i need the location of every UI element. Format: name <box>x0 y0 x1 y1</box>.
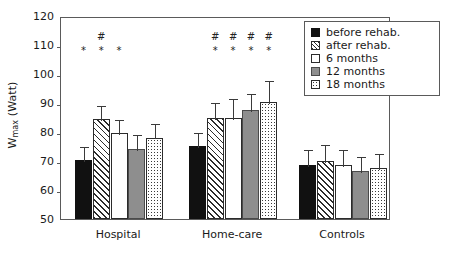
error-bar-cap <box>229 99 238 100</box>
bar-home-care-series-2 <box>225 118 242 219</box>
significance-star-marker: * <box>93 46 110 56</box>
legend-item-label: after rehab. <box>326 40 391 51</box>
significance-star-marker: * <box>75 46 92 56</box>
bar-hospital-series-2 <box>111 133 128 219</box>
bar-controls-series-1 <box>317 161 334 219</box>
error-bar-cap <box>151 124 160 125</box>
error-bar-cap <box>321 145 330 146</box>
error-bar <box>379 154 380 170</box>
error-bar-cap <box>194 133 203 134</box>
y-axis-tick-label: 80 <box>20 127 54 138</box>
legend-item-6-months: 6 months <box>311 52 434 65</box>
y-axis-tick-label: 60 <box>20 185 54 196</box>
error-bar-cap <box>211 103 220 104</box>
bar-controls-series-2 <box>335 165 352 219</box>
error-bar <box>137 135 138 150</box>
error-bar-cap <box>247 94 256 95</box>
y-axis-tick-mark <box>57 76 61 77</box>
x-axis-group-label-controls: Controls <box>297 228 387 241</box>
significance-star-marker: * <box>260 46 277 56</box>
significance-star-marker: * <box>207 46 224 56</box>
error-bar <box>343 150 344 167</box>
bar-home-care-series-3 <box>242 110 259 219</box>
x-axis-group-label-home-care: Home-care <box>187 228 277 241</box>
legend-swatch-icon <box>311 67 320 76</box>
y-axis-tick-labels: 5060708090100110120 <box>20 0 54 254</box>
y-axis-tick-label: 50 <box>20 214 54 225</box>
legend-item-label: 6 months <box>326 53 378 64</box>
significance-star-marker: * <box>225 46 242 56</box>
bar-controls-series-0 <box>299 165 316 219</box>
y-axis-tick-label: 120 <box>20 11 54 22</box>
error-bar <box>101 106 102 121</box>
error-bar <box>361 157 362 174</box>
legend-item-18-months: 18 months <box>311 78 434 91</box>
legend-item-label: 18 months <box>326 79 385 90</box>
bar-home-care-series-1 <box>207 118 224 219</box>
bar-controls-series-4 <box>370 168 387 219</box>
legend-item-12-months: 12 months <box>311 65 434 78</box>
y-axis-title-subscript: max <box>11 120 20 138</box>
y-axis-tick-label: 100 <box>20 69 54 80</box>
legend-item-label: 12 months <box>326 66 385 77</box>
legend-swatch-icon <box>311 80 320 89</box>
significance-star-marker: * <box>111 46 128 56</box>
y-axis-tick-label: 110 <box>20 40 54 51</box>
legend-swatch-icon <box>311 28 320 37</box>
error-bar <box>84 147 85 162</box>
error-bar <box>325 145 326 163</box>
error-bar <box>269 81 270 104</box>
significance-hash-marker: # <box>93 32 110 42</box>
error-bar-cap <box>304 150 313 151</box>
y-axis-title-unit: (Watt) <box>6 81 19 119</box>
y-axis-tick-mark <box>57 105 61 106</box>
error-bar-cap <box>115 120 124 121</box>
error-bar-cap <box>375 154 384 155</box>
error-bar-cap <box>97 106 106 107</box>
error-bar-cap <box>339 150 348 151</box>
bar-chart-figure: Wmax (Watt) 5060708090100110120 #***####… <box>0 0 450 254</box>
error-bar <box>233 99 234 120</box>
significance-hash-marker: # <box>207 32 224 42</box>
error-bar <box>155 124 156 139</box>
bar-controls-series-3 <box>352 171 369 219</box>
legend-item-before-rehab: before rehab. <box>311 26 434 39</box>
legend-swatch-icon <box>311 54 320 63</box>
error-bar <box>198 133 199 148</box>
legend-item-after-rehab: after rehab. <box>311 39 434 52</box>
significance-hash-marker: # <box>260 32 277 42</box>
bar-hospital-series-1 <box>93 119 110 219</box>
error-bar <box>251 94 252 112</box>
error-bar-cap <box>357 157 366 158</box>
significance-star-marker: * <box>242 46 259 56</box>
y-axis-title: Wmax (Watt) <box>6 50 20 180</box>
y-axis-title-main: W <box>6 138 19 149</box>
error-bar-cap <box>133 135 142 136</box>
y-axis-tick-mark <box>57 192 61 193</box>
y-axis-tick-mark <box>57 134 61 135</box>
bar-home-care-series-0 <box>189 146 206 219</box>
legend-item-label: before rehab. <box>326 27 400 38</box>
legend-swatch-icon <box>311 41 320 50</box>
error-bar <box>119 120 120 136</box>
y-axis-tick-mark <box>57 163 61 164</box>
error-bar-cap <box>265 81 274 82</box>
x-axis-group-label-hospital: Hospital <box>73 228 163 241</box>
y-axis-tick-label: 90 <box>20 98 54 109</box>
significance-hash-marker: # <box>225 32 242 42</box>
y-axis-tick-mark <box>57 47 61 48</box>
bar-home-care-series-4 <box>260 102 277 219</box>
bar-hospital-series-3 <box>128 149 145 219</box>
y-axis-tick-label: 70 <box>20 156 54 167</box>
bar-hospital-series-0 <box>75 160 92 219</box>
error-bar <box>308 150 309 167</box>
significance-hash-marker: # <box>242 32 259 42</box>
error-bar <box>215 103 216 120</box>
chart-legend: before rehab.after rehab.6 months12 mont… <box>304 21 440 96</box>
error-bar-cap <box>80 147 89 148</box>
bar-hospital-series-4 <box>146 138 163 219</box>
